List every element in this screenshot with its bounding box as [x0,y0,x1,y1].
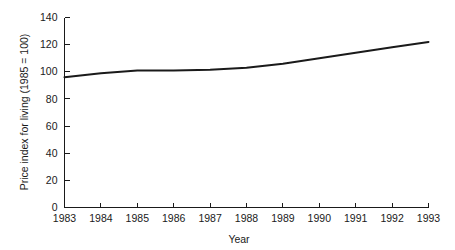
y-axis-title: Price index for living (1985 = 100) [18,34,30,191]
x-tick-label: 1992 [380,212,404,224]
x-axis-title: Year [228,233,250,245]
data-series-line [65,42,429,77]
y-tick-label: 100 [40,65,58,77]
y-tick-label: 80 [46,93,58,105]
y-tick-label: 120 [40,38,58,50]
x-tick-label: 1993 [417,212,441,224]
x-tick-label: 1990 [308,212,332,224]
x-tick-label: 1986 [162,212,186,224]
chart-figure: 020406080100120140 198319841985198619871… [0,0,455,250]
y-axis-ticks [65,18,70,208]
y-tick-label: 20 [46,174,58,186]
y-tick-label: 140 [40,11,58,23]
x-tick-label: 1983 [53,212,77,224]
x-axis-tick-labels: 1983198419851986198719881989199019911992… [53,212,441,224]
x-tick-label: 1989 [271,212,295,224]
x-tick-label: 1991 [344,212,368,224]
x-tick-label: 1985 [126,212,150,224]
x-axis-ticks [65,203,429,208]
x-tick-label: 1988 [235,212,259,224]
y-tick-label: 60 [46,120,58,132]
y-tick-label: 40 [46,147,58,159]
x-tick-label: 1987 [198,212,222,224]
line-chart: 020406080100120140 198319841985198619871… [0,0,455,250]
y-axis-tick-labels: 020406080100120140 [40,11,58,213]
x-tick-label: 1984 [89,212,113,224]
